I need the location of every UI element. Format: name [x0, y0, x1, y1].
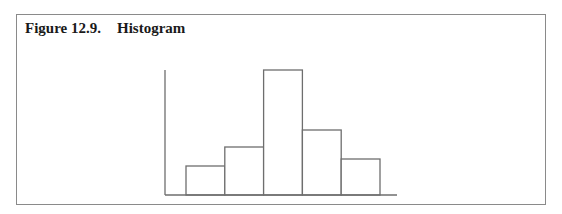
histogram-bar [225, 147, 264, 195]
histogram-bars [186, 70, 380, 195]
histogram-bar [302, 130, 341, 195]
histogram-bar [341, 159, 380, 195]
histogram-bar [264, 70, 303, 195]
histogram-bar [186, 166, 225, 195]
histogram-chart [0, 0, 562, 214]
